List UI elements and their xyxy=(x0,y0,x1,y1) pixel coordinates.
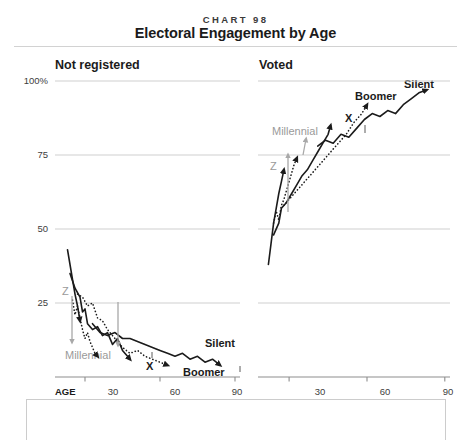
panel-heading-not-registered: Not registered xyxy=(55,58,140,72)
x-axis-label-right-90: 90 xyxy=(433,386,463,397)
series-line-x xyxy=(274,125,331,234)
series-line-z xyxy=(268,170,284,265)
data-series xyxy=(68,90,427,365)
x-axis-label-left-90: 90 xyxy=(222,386,252,397)
series-label-right-millennial: Millennial xyxy=(272,125,318,137)
millennial-arrow-right xyxy=(303,139,306,155)
chart-title: Electoral Engagement by Age xyxy=(0,25,471,41)
series-label-left-boomer: Boomer xyxy=(183,366,225,378)
series-label-right-z: Z xyxy=(270,160,277,172)
y-axis-label-75: 75 xyxy=(14,149,48,160)
series-line-silent xyxy=(93,324,221,366)
x-axis-label-left-60: 60 xyxy=(160,386,190,397)
gridlines xyxy=(55,81,450,303)
x-axis-name-left: AGE xyxy=(55,386,76,397)
series-label-left-silent: Silent xyxy=(205,337,235,349)
series-label-right-silent: Silent xyxy=(404,78,434,90)
x-axis-label-left-30: 30 xyxy=(98,386,128,397)
x-axes xyxy=(55,377,450,382)
series-line-millennial xyxy=(73,300,98,356)
series-label-right-boomer: Boomer xyxy=(355,90,397,102)
series-line-x xyxy=(70,273,130,359)
series-line-boomer xyxy=(284,105,367,206)
series-label-left-z: Z xyxy=(62,285,69,297)
x-axis-label-right-60: 60 xyxy=(370,386,400,397)
y-axis-label-100: 100% xyxy=(14,75,48,86)
series-label-left-millennial: Millennial xyxy=(65,349,111,361)
series-line-z xyxy=(68,250,81,321)
series-label-left-x: X xyxy=(146,360,153,372)
header-divider xyxy=(14,46,457,47)
annotation-arrows xyxy=(72,125,365,372)
chart-kicker: CHART 98 xyxy=(0,14,471,25)
x-axis-label-right-30: 30 xyxy=(305,386,335,397)
y-axis-label-25: 25 xyxy=(14,297,48,308)
series-line-millennial xyxy=(274,158,297,223)
footer-panel xyxy=(26,399,446,440)
y-axis-label-50: 50 xyxy=(14,223,48,234)
panel-heading-voted: Voted xyxy=(259,58,293,72)
series-label-right-x: X xyxy=(345,112,352,124)
